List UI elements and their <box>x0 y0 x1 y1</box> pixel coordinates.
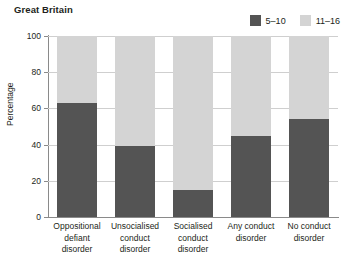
x-axis-label-line: disorder <box>48 244 106 256</box>
x-axis-label-line: conduct <box>106 233 164 245</box>
x-axis-label-line: conduct <box>164 233 222 245</box>
bar-segment[interactable] <box>173 36 213 190</box>
x-axis-label: No conductdisorder <box>280 221 338 244</box>
x-axis-label-line: defiant <box>48 233 106 245</box>
bar-group[interactable] <box>173 36 213 217</box>
y-axis-tick-label: 20 <box>32 176 41 186</box>
chart-plot: Percentage 020406080100 Oppositionaldefi… <box>0 0 352 277</box>
x-axis-label-line: Unsocialised <box>106 221 164 233</box>
x-axis-label: Socialisedconductdisorder <box>164 221 222 256</box>
y-axis-tick-label: 0 <box>36 212 41 222</box>
y-axis-tick-label: 100 <box>27 31 41 41</box>
bar-segment[interactable] <box>57 36 97 103</box>
y-axis-title: Percentage <box>5 83 15 126</box>
x-axis-labels: OppositionaldefiantdisorderUnsocialisedc… <box>48 221 338 273</box>
bar-segment[interactable] <box>115 146 155 217</box>
y-axis-tick-label: 40 <box>32 140 41 150</box>
x-axis-label: Unsocialisedconductdisorder <box>106 221 164 256</box>
x-axis-label-line: disorder <box>164 244 222 256</box>
y-axis-tick-label: 60 <box>32 103 41 113</box>
x-axis-line <box>48 217 339 218</box>
bar-group[interactable] <box>57 36 97 217</box>
bars-layer <box>48 36 338 217</box>
bar-segment[interactable] <box>173 190 213 217</box>
x-axis-label-line: Socialised <box>164 221 222 233</box>
bar-segment[interactable] <box>57 103 97 217</box>
x-axis-label-line: Oppositional <box>48 221 106 233</box>
x-axis-label-line: disorder <box>222 233 280 245</box>
bar-segment[interactable] <box>231 36 271 136</box>
bar-segment[interactable] <box>115 36 155 146</box>
y-axis-tick <box>44 217 48 218</box>
x-axis-label-line: disorder <box>106 244 164 256</box>
x-axis-label: Oppositionaldefiantdisorder <box>48 221 106 256</box>
bar-group[interactable] <box>115 36 155 217</box>
x-axis-label-line: Any conduct <box>222 221 280 233</box>
plot-area: 020406080100 <box>48 36 338 217</box>
x-axis-label-line: No conduct <box>280 221 338 233</box>
bar-group[interactable] <box>289 36 329 217</box>
bar-segment[interactable] <box>231 136 271 217</box>
bar-segment[interactable] <box>289 119 329 217</box>
bar-group[interactable] <box>231 36 271 217</box>
y-axis-tick-label: 80 <box>32 67 41 77</box>
x-axis-label-line: disorder <box>280 233 338 245</box>
bar-segment[interactable] <box>289 36 329 119</box>
x-axis-label: Any conductdisorder <box>222 221 280 244</box>
